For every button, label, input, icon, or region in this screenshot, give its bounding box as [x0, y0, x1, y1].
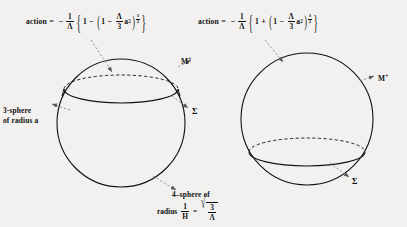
right-instanton-diagram	[241, 40, 374, 185]
radius-denominator: H	[181, 213, 189, 220]
left-instanton-diagram	[52, 40, 191, 190]
right-four-sphere-outline	[241, 53, 373, 185]
action-equation-right: action = − 1 Λ { 1 + ( 1 − Λ 3 a 2 ) 3 2…	[198, 13, 320, 30]
equation-left-prefactor-den: Λ	[66, 23, 73, 30]
left-sigma-front-arc	[64, 89, 178, 103]
radius-equals-sign: =	[193, 207, 197, 216]
left-sigma-back-arc	[64, 75, 178, 89]
equation-left-inner-first: 1	[101, 18, 105, 26]
label-m-plus-right-superscript: +	[385, 73, 388, 79]
equation-left-exponent: 3 2	[136, 14, 139, 25]
equation-left-first-term: 1	[83, 18, 87, 26]
equation-right-lhs: action	[198, 18, 219, 26]
equation-right-lambda-den: 3	[288, 23, 294, 30]
equation-right-prefactor-den: Λ	[238, 23, 245, 30]
square-root-expression: √ 3 Λ	[201, 202, 218, 221]
equation-left-exponent-den: 2	[136, 20, 139, 25]
label-three-sphere-line2: of radius a	[3, 116, 38, 125]
radicand-fraction: 3 Λ	[208, 204, 215, 221]
equation-right-a-power: 2	[300, 19, 303, 24]
equation-right-paren-close: )	[304, 13, 307, 31]
radius-numerator: 1	[182, 203, 188, 210]
equation-right-paren-open: (	[269, 13, 272, 31]
radicand-denominator: Λ	[208, 214, 215, 221]
equation-right-brace-close: }	[314, 11, 319, 33]
equation-left-lambda-num: Λ	[116, 13, 123, 20]
equation-right-sign: −	[231, 18, 236, 26]
label-four-sphere-radius: radius 1 H = √ 3 Λ	[157, 202, 218, 221]
figure-canvas: action = − 1 Λ { 1 − ( 1 − Λ 3 a 2 ) 3 2…	[0, 0, 407, 227]
right-leader-to-mplus-label	[360, 76, 374, 81]
equation-left-brace-open: {	[77, 11, 82, 33]
right-sigma-back-arc	[249, 138, 365, 152]
right-sigma-front-arc	[249, 152, 365, 166]
action-equation-left: action = − 1 Λ { 1 − ( 1 − Λ 3 a 2 ) 3 2…	[26, 13, 148, 30]
equation-right-brace-open: {	[249, 11, 254, 33]
label-sigma-left: Σ	[192, 106, 198, 117]
equation-left-lambda-den: 3	[116, 23, 122, 30]
equation-right-first-term: 1	[255, 18, 259, 26]
equation-left-operator: −	[89, 18, 94, 26]
left-four-sphere-outline	[57, 59, 185, 187]
equation-left-inner-operator: −	[107, 18, 112, 26]
equation-right-lambda-num: Λ	[288, 13, 295, 20]
equation-right-lambda-fraction: Λ 3	[288, 13, 295, 30]
equation-right-inner-operator: −	[279, 18, 284, 26]
label-radius-word: radius	[157, 207, 177, 216]
label-m-plus-left-superscript: +	[188, 56, 191, 62]
equation-left-equals: =	[49, 18, 54, 26]
left-leader-to-equation	[91, 40, 112, 72]
equation-right-prefactor: 1 Λ	[238, 13, 245, 30]
equation-left-sign: −	[59, 18, 64, 26]
equation-left-paren-open: (	[97, 13, 100, 31]
label-three-sphere: 3-sphere of radius a	[3, 106, 65, 126]
equation-left-prefactor-num: 1	[67, 13, 73, 20]
label-m-plus-left: M+	[181, 57, 191, 67]
equation-left-a-power: 2	[128, 19, 131, 24]
equation-right-equals: =	[221, 18, 226, 26]
equation-right-prefactor-num: 1	[239, 13, 245, 20]
equation-right-operator: +	[261, 18, 266, 26]
equation-right-exponent-den: 2	[308, 20, 311, 25]
equation-left-paren-close: )	[132, 13, 135, 31]
equation-right-exponent-num: 3	[308, 14, 311, 19]
equation-left-brace-close: }	[142, 11, 147, 33]
equation-left-prefactor: 1 Λ	[66, 13, 73, 30]
left-leader-to-4sphere-label	[153, 176, 176, 190]
radicand-numerator: 3	[209, 204, 215, 211]
equation-right-inner-first: 1	[273, 18, 277, 26]
label-m-plus-right: M+	[378, 74, 388, 84]
radicand: 3 Λ	[206, 202, 219, 221]
label-sigma-right: Σ	[352, 176, 358, 187]
label-three-sphere-line1: 3-sphere	[3, 106, 31, 115]
equation-right-exponent: 3 2	[308, 14, 311, 25]
equation-left-lhs: action	[26, 18, 47, 26]
equation-left-exponent-num: 3	[136, 14, 139, 19]
equation-left-lambda-fraction: Λ 3	[116, 13, 123, 30]
radius-fraction: 1 H	[181, 203, 189, 220]
radical-sign-icon: √	[201, 194, 205, 227]
